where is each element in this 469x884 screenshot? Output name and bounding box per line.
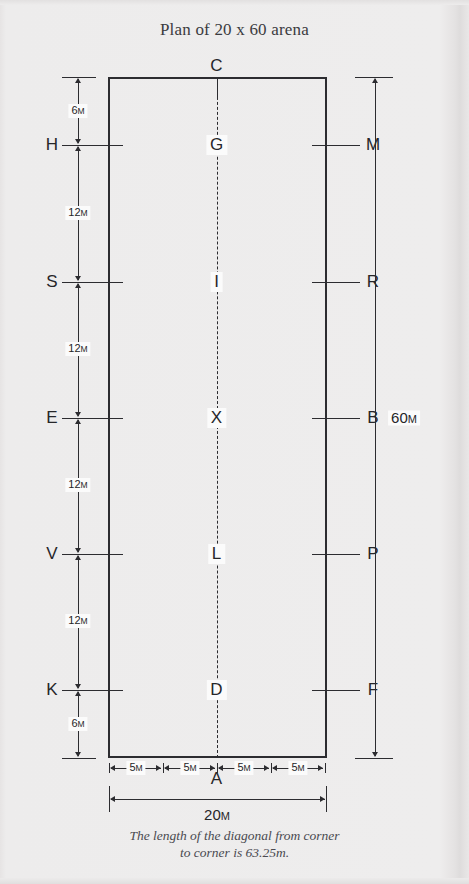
dimension-label-12m-hs: 12M bbox=[65, 206, 90, 220]
dimension-label-5m-1: 5M bbox=[126, 761, 145, 775]
centerline-letter-l: L bbox=[208, 544, 225, 564]
centerline-letter-d: D bbox=[206, 680, 226, 700]
arrow-up-12m-hs bbox=[75, 146, 81, 151]
left-letter-s: S bbox=[46, 273, 57, 291]
arrow-right-5m-4 bbox=[318, 765, 323, 771]
arrow-up-6m-top bbox=[75, 78, 81, 83]
dimension-label-6m-bottom: 6M bbox=[68, 717, 87, 731]
witness-line-20m-right bbox=[326, 786, 327, 812]
arrow-up-12m-vk bbox=[75, 555, 81, 560]
arrow-up-6m-bottom bbox=[75, 691, 81, 696]
arrow-down-12m-se bbox=[75, 412, 81, 417]
arrow-right-20m bbox=[320, 796, 325, 802]
left-letter-v: V bbox=[46, 545, 57, 563]
dimension-label-5m-4: 5M bbox=[288, 761, 307, 775]
dimension-label-5m-3: 5M bbox=[234, 761, 253, 775]
tick-5m-4 bbox=[325, 763, 326, 773]
arrow-up-12m-se bbox=[75, 283, 81, 288]
caption-line-1: The length of the diagonal from corner bbox=[0, 827, 469, 844]
arrow-right-5m-2 bbox=[210, 765, 215, 771]
arrow-right-5m-3 bbox=[264, 765, 269, 771]
dimension-label-20m: 20M bbox=[201, 808, 233, 823]
marker-tick-b bbox=[312, 418, 360, 419]
arena-plan-diagram: Plan of 20 x 60 arena C G I X L D A H S … bbox=[0, 0, 469, 884]
right-letter-r: R bbox=[367, 273, 379, 291]
caption-line-2: to corner is 63.25m. bbox=[0, 844, 469, 861]
marker-tick-p bbox=[312, 554, 360, 555]
arrow-right-5m-1 bbox=[156, 765, 161, 771]
arrow-left-5m-4 bbox=[272, 765, 277, 771]
arrow-down-60m bbox=[372, 752, 378, 757]
marker-tick-m bbox=[312, 145, 360, 146]
arrow-up-12m-ev bbox=[75, 419, 81, 424]
left-letter-h: H bbox=[46, 136, 58, 154]
witness-line-60m-bottom bbox=[355, 758, 393, 759]
dim-line-60m bbox=[375, 79, 376, 756]
arrow-down-12m-hs bbox=[75, 276, 81, 281]
arrow-down-12m-ev bbox=[75, 548, 81, 553]
arrow-up-60m bbox=[372, 78, 378, 83]
left-letter-e: E bbox=[46, 409, 57, 427]
right-letter-f: F bbox=[368, 681, 378, 699]
arrow-left-5m-2 bbox=[164, 765, 169, 771]
dimension-label-6m-top: 6M bbox=[68, 104, 87, 118]
centerline-letter-x: X bbox=[207, 408, 226, 428]
marker-tick-r bbox=[312, 282, 360, 283]
arrow-down-6m-top bbox=[75, 139, 81, 144]
right-letter-p: P bbox=[367, 545, 378, 563]
dimension-label-12m-vk: 12M bbox=[65, 614, 90, 628]
c-marker-tick bbox=[217, 77, 218, 99]
centerline-letter-i: I bbox=[210, 272, 223, 292]
diagram-caption: The length of the diagonal from corner t… bbox=[0, 827, 469, 861]
dimension-label-12m-se: 12M bbox=[65, 342, 90, 356]
arrow-down-6m-bottom bbox=[75, 752, 81, 757]
right-letter-m: M bbox=[366, 136, 380, 154]
centerline-letter-g: G bbox=[206, 135, 227, 155]
dim-line-20m bbox=[111, 799, 325, 800]
arrow-left-5m-1 bbox=[110, 765, 115, 771]
left-letter-k: K bbox=[46, 681, 57, 699]
right-letter-b: B bbox=[367, 409, 378, 427]
arrow-down-12m-vk bbox=[75, 684, 81, 689]
witness-line-bottom bbox=[62, 758, 96, 759]
marker-tick-f bbox=[312, 690, 360, 691]
arrow-left-20m bbox=[110, 796, 115, 802]
dimension-label-60m: 60M bbox=[388, 411, 420, 426]
arrow-left-5m-3 bbox=[218, 765, 223, 771]
centerline-letter-c: C bbox=[206, 56, 226, 76]
dimension-label-12m-ev: 12M bbox=[65, 478, 90, 492]
page-title: Plan of 20 x 60 arena bbox=[0, 20, 469, 40]
dimension-label-5m-2: 5M bbox=[180, 761, 199, 775]
